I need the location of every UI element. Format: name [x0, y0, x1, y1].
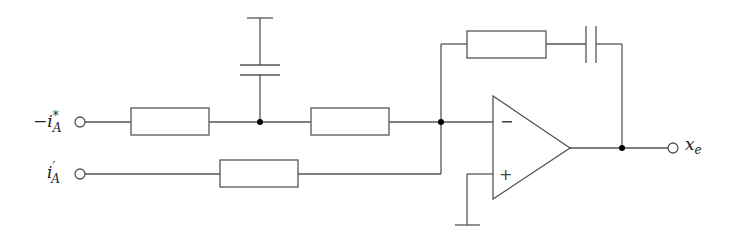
input-1-label: −i*A	[33, 109, 62, 135]
circuit-diagram: − + −i*A i′A xe	[0, 0, 736, 239]
junction-dot	[257, 119, 263, 125]
resistor-rf	[467, 31, 546, 58]
junction-dot	[438, 119, 444, 125]
output-label: xe	[685, 134, 702, 157]
input-terminal-2	[75, 169, 85, 179]
resistor-r3	[220, 160, 298, 187]
resistor-r2	[311, 108, 389, 135]
output-terminal	[668, 143, 678, 153]
resistor-r1	[131, 108, 209, 135]
non-inverting-input-sign: +	[499, 165, 512, 184]
junction-dot	[619, 145, 625, 151]
input-2-label: i′A	[47, 160, 60, 186]
inverting-input-sign: −	[500, 112, 513, 131]
input-terminal-1	[75, 117, 85, 127]
